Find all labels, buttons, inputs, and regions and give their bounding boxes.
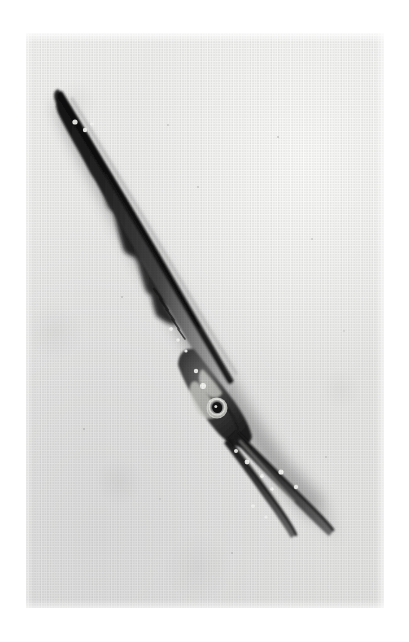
scan-banding — [26, 33, 384, 608]
screenshot-canvas — [0, 0, 409, 642]
photograph-plate — [26, 33, 384, 608]
